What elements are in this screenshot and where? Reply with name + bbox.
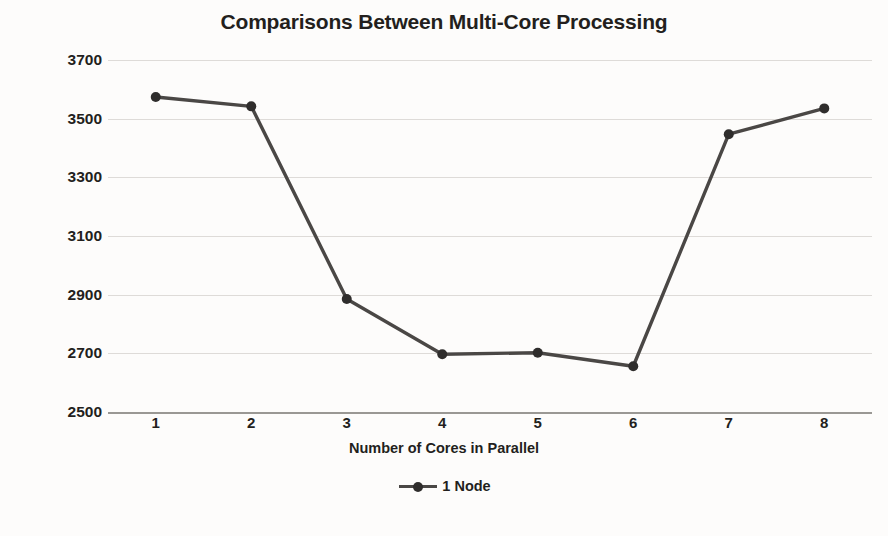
x-axis-tick-label: 8 <box>794 414 854 431</box>
y-axis-tick-label: 2700 <box>40 344 102 362</box>
plot-area <box>108 60 872 412</box>
x-axis-tick-label: 5 <box>508 414 568 431</box>
y-axis-tick-label: 3700 <box>40 51 102 69</box>
x-axis-title: Number of Cores in Parallel <box>0 440 888 456</box>
x-axis-tick-label: 4 <box>412 414 472 431</box>
x-axis-tick-label: 1 <box>126 414 186 431</box>
data-point-marker[interactable] <box>533 348 543 358</box>
x-axis-tick-label: 3 <box>317 414 377 431</box>
series-polyline <box>156 97 825 366</box>
y-axis-tick-label: 3300 <box>40 168 102 186</box>
y-axis-tick-label: 3100 <box>40 227 102 245</box>
data-point-marker[interactable] <box>342 294 352 304</box>
data-point-marker[interactable] <box>246 101 256 111</box>
data-point-marker[interactable] <box>819 103 829 113</box>
data-point-marker[interactable] <box>437 349 447 359</box>
data-point-marker[interactable] <box>628 361 638 371</box>
chart-container: Comparisons Between Multi-Core Processin… <box>0 0 888 536</box>
chart-legend: 1 Node <box>0 478 888 494</box>
y-axis-tick-label: 2900 <box>40 286 102 304</box>
y-axis-ticks: 3700350033003100290027002500 <box>36 60 102 412</box>
y-axis-tick-label: 2500 <box>40 403 102 421</box>
chart-title: Comparisons Between Multi-Core Processin… <box>0 10 888 34</box>
x-axis-ticks: 12345678 <box>108 414 872 440</box>
y-axis-tick-label: 3500 <box>40 110 102 128</box>
legend-item-label: 1 Node <box>442 478 490 494</box>
legend-line-marker-icon <box>397 479 439 493</box>
x-axis-tick-label: 7 <box>699 414 759 431</box>
data-point-marker[interactable] <box>724 129 734 139</box>
legend-item-1-node[interactable]: 1 Node <box>397 478 490 494</box>
x-axis-tick-label: 2 <box>221 414 281 431</box>
series-line-1-node <box>108 60 872 412</box>
data-point-marker[interactable] <box>151 92 161 102</box>
x-axis-tick-label: 6 <box>603 414 663 431</box>
